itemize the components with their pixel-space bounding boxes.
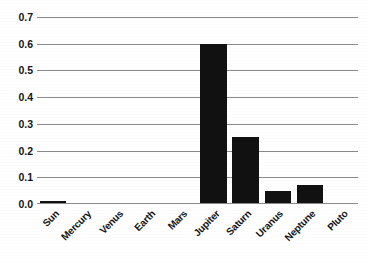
bar-slot bbox=[198, 17, 230, 204]
plot-area bbox=[37, 17, 358, 204]
bar-chart: 0.70.60.50.40.30.20.10.0 SunMercuryVenus… bbox=[0, 0, 367, 262]
y-tick-label: 0.3 bbox=[0, 118, 33, 130]
x-tick-slot: Mars bbox=[165, 204, 197, 262]
bar bbox=[297, 185, 323, 204]
x-tick-label: Venus bbox=[97, 208, 125, 236]
y-tick-label: 0.7 bbox=[0, 11, 33, 23]
bar-series bbox=[37, 17, 358, 204]
x-tick-label: Sun bbox=[40, 208, 61, 229]
bar-slot bbox=[165, 17, 197, 204]
x-tick-slot: Pluto bbox=[326, 204, 358, 262]
bar-slot bbox=[37, 17, 69, 204]
y-tick-label: 0.6 bbox=[0, 38, 33, 50]
y-tick-label: 0.5 bbox=[0, 64, 33, 76]
bar bbox=[265, 191, 291, 204]
x-tick-slot: Mercury bbox=[69, 204, 101, 262]
x-tick-label: Mars bbox=[165, 208, 189, 232]
bar bbox=[200, 44, 226, 204]
bar bbox=[232, 137, 258, 204]
x-axis-tick-labels: SunMercuryVenusEarthMarsJupiterSaturnUra… bbox=[37, 204, 358, 262]
x-tick-slot: Earth bbox=[133, 204, 165, 262]
bar-slot bbox=[69, 17, 101, 204]
x-tick-label: Earth bbox=[132, 208, 157, 233]
x-tick-slot: Neptune bbox=[294, 204, 326, 262]
y-tick-label: 0.0 bbox=[0, 198, 33, 210]
y-tick-label: 0.2 bbox=[0, 145, 33, 157]
x-tick-label: Pluto bbox=[325, 208, 350, 233]
x-tick-slot: Venus bbox=[101, 204, 133, 262]
bar-slot bbox=[294, 17, 326, 204]
x-tick-slot: Jupiter bbox=[198, 204, 230, 262]
bar-slot bbox=[101, 17, 133, 204]
bar-slot bbox=[230, 17, 262, 204]
y-axis-tick-labels: 0.70.60.50.40.30.20.10.0 bbox=[0, 17, 37, 204]
bar-slot bbox=[133, 17, 165, 204]
bar-slot bbox=[326, 17, 358, 204]
y-tick-label: 0.4 bbox=[0, 91, 33, 103]
bar-slot bbox=[262, 17, 294, 204]
y-tick-label: 0.1 bbox=[0, 171, 33, 183]
